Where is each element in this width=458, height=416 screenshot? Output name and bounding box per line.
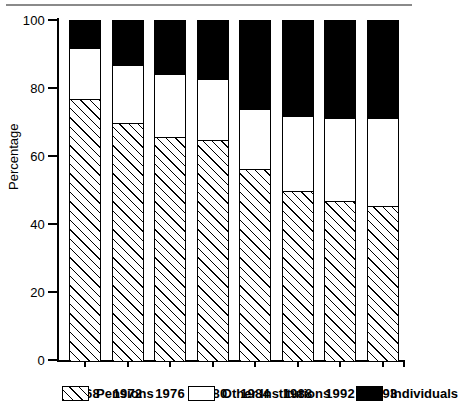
legend-label-individuals: Individuals bbox=[390, 386, 458, 401]
bar-1988[interactable] bbox=[282, 20, 314, 360]
y-axis-tick-label: 20 bbox=[30, 285, 45, 300]
bar-segment-individuals bbox=[325, 21, 355, 118]
bar-segment-pensions bbox=[155, 137, 185, 361]
white-swatch-icon bbox=[188, 386, 215, 401]
hatch-swatch-icon bbox=[62, 386, 89, 401]
x-axis-tick bbox=[339, 360, 341, 367]
y-axis-tick-label: 80 bbox=[30, 81, 45, 96]
bar-segment-individuals bbox=[155, 21, 185, 74]
chart-legend: Pensions Other Institutions Individuals bbox=[62, 386, 458, 401]
x-axis-tick bbox=[212, 360, 214, 367]
bar-segment-pensions bbox=[198, 140, 228, 361]
bar-segment-other-institutions bbox=[283, 116, 313, 191]
bar-1980[interactable] bbox=[197, 20, 229, 360]
legend-item-other-institutions: Other Institutions bbox=[188, 386, 330, 401]
plot-area: 020406080100 196819721976198019841988199… bbox=[57, 20, 402, 360]
bar-1984[interactable] bbox=[239, 20, 271, 360]
top-divider-rule bbox=[6, 4, 412, 6]
bar-segment-pensions bbox=[240, 169, 270, 361]
x-axis-tick bbox=[403, 360, 405, 367]
y-axis-tick-label: 60 bbox=[30, 149, 45, 164]
legend-label-pensions: Pensions bbox=[96, 386, 154, 401]
y-axis-tick bbox=[48, 291, 57, 293]
bar-1976[interactable] bbox=[154, 20, 186, 360]
y-axis-tick-label: 100 bbox=[23, 13, 45, 28]
bar-segment-pensions bbox=[368, 206, 398, 361]
black-swatch-icon bbox=[356, 386, 383, 401]
bar-segment-individuals bbox=[283, 21, 313, 116]
y-axis-tick bbox=[48, 223, 57, 225]
bar-1972[interactable] bbox=[112, 20, 144, 360]
x-axis-tick bbox=[127, 360, 129, 367]
x-axis-tick bbox=[382, 360, 384, 367]
bar-segment-other-institutions bbox=[155, 74, 185, 137]
bar-segment-pensions bbox=[283, 191, 313, 361]
y-axis-line bbox=[57, 18, 59, 362]
bar-1993[interactable] bbox=[367, 20, 399, 360]
y-axis-tick-label: 0 bbox=[38, 353, 45, 368]
bar-segment-other-institutions bbox=[368, 118, 398, 206]
bar-1968[interactable] bbox=[69, 20, 101, 360]
x-axis-tick bbox=[84, 360, 86, 367]
bar-segment-individuals bbox=[240, 21, 270, 109]
legend-item-individuals: Individuals bbox=[356, 386, 458, 401]
bar-segment-individuals bbox=[113, 21, 143, 65]
bar-segment-pensions bbox=[70, 99, 100, 361]
bar-segment-other-institutions bbox=[325, 118, 355, 201]
bar-segment-individuals bbox=[198, 21, 228, 79]
y-axis-tick bbox=[48, 359, 57, 361]
bar-segment-pensions bbox=[113, 123, 143, 361]
y-axis-tick bbox=[48, 87, 57, 89]
y-axis-title: Percentage bbox=[6, 124, 21, 191]
bar-segment-other-institutions bbox=[198, 79, 228, 140]
legend-label-other-institutions: Other Institutions bbox=[222, 386, 330, 401]
x-axis-tick bbox=[254, 360, 256, 367]
bar-segment-other-institutions bbox=[113, 65, 143, 123]
bar-segment-other-institutions bbox=[240, 109, 270, 169]
y-axis-tick-label: 40 bbox=[30, 217, 45, 232]
bar-segment-individuals bbox=[368, 21, 398, 118]
y-axis-tick bbox=[48, 155, 57, 157]
bar-1992[interactable] bbox=[324, 20, 356, 360]
y-axis-tick bbox=[48, 19, 57, 21]
x-axis-tick bbox=[297, 360, 299, 367]
bar-segment-pensions bbox=[325, 201, 355, 361]
x-axis-tick bbox=[169, 360, 171, 367]
legend-item-pensions: Pensions bbox=[62, 386, 154, 401]
bar-segment-individuals bbox=[70, 21, 100, 48]
bar-segment-other-institutions bbox=[70, 48, 100, 99]
